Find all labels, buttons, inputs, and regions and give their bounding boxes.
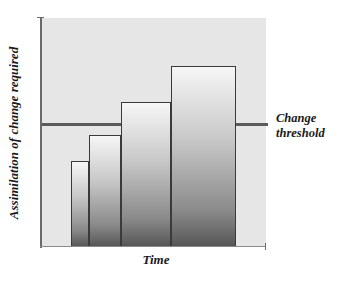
x-axis-tick: [265, 243, 266, 250]
bar-2: [89, 135, 121, 247]
y-axis-label: Assimilation of change required: [6, 47, 22, 219]
y-axis-tick: [37, 17, 44, 18]
bar-4: [171, 66, 236, 247]
threshold-label-line2: threshold: [276, 126, 325, 141]
bar-1: [71, 161, 89, 247]
threshold-label: Change threshold: [276, 111, 325, 141]
x-axis: [40, 246, 266, 247]
x-axis-label: Time: [126, 252, 186, 268]
threshold-label-line1: Change: [276, 111, 325, 126]
y-axis: [40, 17, 42, 248]
bar-3: [121, 102, 171, 247]
